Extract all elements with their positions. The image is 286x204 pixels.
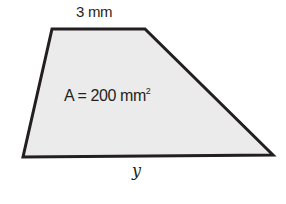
- area-label: A = 200 mm2: [64, 86, 150, 105]
- area-value: A = 200 mm: [64, 87, 146, 104]
- area-exponent: 2: [146, 86, 151, 96]
- top-side-label: 3 mm: [76, 3, 112, 20]
- bottom-side-label: y: [132, 161, 141, 180]
